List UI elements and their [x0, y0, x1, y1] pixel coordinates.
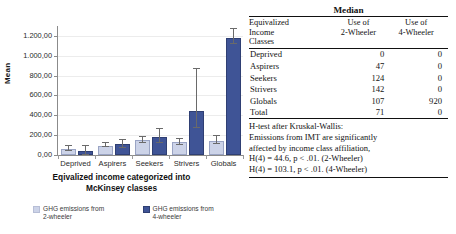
x-axis-category-label: Globals [205, 160, 242, 168]
bar-group [98, 26, 130, 155]
legend-swatch-icon-2wheeler [33, 206, 40, 213]
error-bar [159, 129, 160, 143]
bar-group [209, 26, 241, 155]
htest-note: H-test after Kruskal-Wallis: Emissions f… [249, 119, 448, 178]
column-header-4wheeler: Use of 4-Wheeler [390, 17, 448, 48]
row-label: Seekers [249, 72, 333, 84]
error-cap-lower [193, 127, 200, 128]
error-cap-upper [213, 135, 220, 136]
cell-2wheeler: 124 [333, 72, 391, 84]
table-row: Deprived 0 0 [249, 48, 448, 60]
chart-legend: GHG emissions from 2-wheeler GHG emissio… [33, 205, 238, 220]
error-cap-lower [102, 146, 109, 147]
column-header-2wheeler: Use of 2-Wheeler [333, 17, 391, 48]
bar-group [135, 26, 167, 155]
x-axis-category-label: Aspirers [94, 160, 131, 168]
error-cap-lower [176, 144, 183, 145]
cell-4wheeler: 0 [390, 72, 448, 84]
bar-with-errorbar [189, 26, 204, 155]
table-row: Strivers 142 0 [249, 84, 448, 96]
htest-line-4: H(4) = 44.6, p < .01. (2-Wheeler) [249, 153, 448, 164]
legend-label-2wheeler: GHG emissions from 2-wheeler [43, 205, 104, 220]
table-row: Globals 107 920 [249, 95, 448, 107]
error-cap-upper [65, 145, 72, 146]
y-axis-tick [54, 76, 58, 77]
cell-2wheeler: 107 [333, 95, 391, 107]
error-cap-upper [230, 28, 237, 29]
y-axis-tick-label: 600,00 [29, 92, 52, 99]
bar-group [61, 26, 93, 155]
row-label: Strivers [249, 84, 333, 96]
bar-with-errorbar [98, 26, 113, 155]
figure-root: Mean 0,00200,00400,00600,00800,001.000,0… [0, 0, 456, 234]
y-axis-tick-label: 200,00 [29, 131, 52, 138]
htest-line-3: affected by income class affiliation, [249, 143, 448, 154]
bar-with-errorbar [226, 26, 241, 155]
cell-4wheeler: 0 [390, 48, 448, 60]
bar-with-errorbar [61, 26, 76, 155]
table-row: Seekers 124 0 [249, 72, 448, 84]
y-axis-tick-label: 1.200,00 [23, 32, 52, 39]
x-axis-category-label: Deprived [57, 160, 94, 168]
bar-group [172, 26, 204, 155]
y-axis-tick [54, 56, 58, 57]
bar-with-errorbar [135, 26, 150, 155]
x-axis-tick [206, 155, 207, 159]
cell-2wheeler: 71 [333, 107, 391, 119]
cell-2wheeler: 47 [333, 60, 391, 72]
error-cap-lower [230, 43, 237, 44]
x-axis-tick [169, 155, 170, 159]
bar-with-errorbar [115, 26, 130, 155]
table-row: Total 71 0 [249, 107, 448, 119]
x-axis-tick [58, 155, 59, 159]
cell-4wheeler: 0 [390, 84, 448, 96]
htest-line-2: Emissions from IMT are significantly [249, 132, 448, 143]
error-cap-upper [82, 145, 89, 146]
legend-label-4wheeler: GHG emissions from 4-wheeler [153, 205, 214, 220]
row-label: Deprived [249, 48, 333, 60]
error-cap-upper [119, 139, 126, 140]
x-axis-title-line1: Eqivalized income categorized into [10, 172, 233, 183]
row-label: Aspirers [249, 60, 333, 72]
plot-area: 0,00200,00400,00600,00800,001.000,001.20… [57, 26, 243, 156]
x-axis-tick [132, 155, 133, 159]
error-cap-lower [119, 147, 126, 148]
error-cap-upper [139, 136, 146, 137]
x-axis-category-label: Seekers [131, 160, 168, 168]
cell-2wheeler: 142 [333, 84, 391, 96]
bar-with-errorbar [152, 26, 167, 155]
y-axis-tick-label: 400,00 [29, 112, 52, 119]
row-label: Globals [249, 95, 333, 107]
legend-swatch-icon-4wheeler [143, 206, 150, 213]
legend-item-2wheeler: GHG emissions from 2-wheeler [33, 205, 129, 220]
error-cap-upper [102, 142, 109, 143]
y-axis-tick-label: 1.000,00 [23, 52, 52, 59]
row-label: Total [249, 107, 333, 119]
x-axis-tick [95, 155, 96, 159]
y-axis-title: Mean [3, 63, 12, 84]
bar-with-errorbar [172, 26, 187, 155]
error-cap-lower [82, 154, 89, 155]
cell-4wheeler: 0 [390, 107, 448, 119]
table-row: Aspirers 47 0 [249, 60, 448, 72]
htest-line-5: H(4) = 103.1, p < .01. (4-Wheeler) [249, 164, 448, 175]
htest-bottom-rule [249, 177, 448, 178]
table-title: Median [249, 4, 448, 16]
stats-table-panel: Median Equivalized Income Classes Use of… [243, 0, 456, 234]
error-cap-upper [156, 128, 163, 129]
y-axis-tick-label: 800,00 [29, 72, 52, 79]
error-bar [233, 29, 234, 44]
y-axis-tick [54, 135, 58, 136]
error-cap-upper [193, 68, 200, 69]
y-axis-tick [54, 115, 58, 116]
bar [226, 38, 241, 155]
x-axis-title-line2: McKinsey classes [10, 183, 233, 194]
bar-with-errorbar [78, 26, 93, 155]
y-axis-tick-label: 0,00 [38, 151, 52, 158]
error-bar [196, 69, 197, 128]
x-axis-title: Eqivalized income categorized into McKin… [0, 172, 243, 194]
bar-chart-panel: Mean 0,00200,00400,00600,00800,001.000,0… [0, 0, 243, 234]
error-cap-lower [213, 143, 220, 144]
bar-with-errorbar [209, 26, 224, 155]
error-cap-lower [139, 142, 146, 143]
